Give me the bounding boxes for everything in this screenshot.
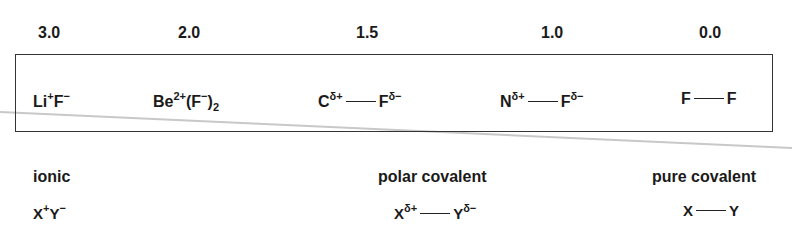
label-polar-covalent: polar covalent bbox=[378, 168, 486, 186]
bond-line bbox=[420, 213, 450, 214]
molecule-bef2: Be2+(F−)2 bbox=[153, 90, 219, 113]
bond-line bbox=[696, 210, 726, 211]
molecule-lif: Li+F− bbox=[33, 90, 70, 111]
scale-value-0: 0.0 bbox=[699, 24, 721, 42]
scale-value-1: 1.0 bbox=[541, 24, 563, 42]
molecule-nf: Nδ+Fδ− bbox=[500, 90, 584, 111]
formula-polar-covalent: Xδ+Yδ− bbox=[394, 202, 476, 222]
label-ionic: ionic bbox=[33, 168, 70, 186]
molecule-cf: Cδ+Fδ− bbox=[318, 90, 402, 111]
bond-line bbox=[346, 101, 376, 102]
label-pure-covalent: pure covalent bbox=[652, 168, 756, 186]
scale-value-2: 2.0 bbox=[178, 24, 200, 42]
scale-value-3: 3.0 bbox=[38, 24, 60, 42]
formula-ionic: X+Y− bbox=[33, 202, 66, 222]
bond-line bbox=[694, 98, 724, 99]
molecule-ff: FF bbox=[681, 90, 737, 108]
formula-pure-covalent: XY bbox=[683, 202, 739, 219]
scale-value-1-5: 1.5 bbox=[356, 24, 378, 42]
bond-line bbox=[528, 101, 558, 102]
